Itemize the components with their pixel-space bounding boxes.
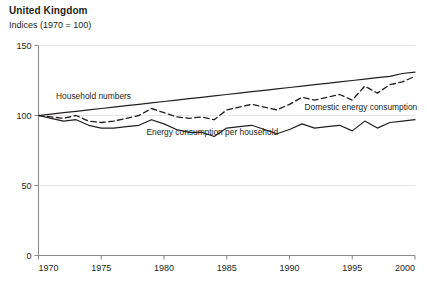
x-tick-label: 2000: [395, 263, 415, 273]
line-chart-plot: 050100150 1970197519801985199019952000 H…: [0, 0, 427, 281]
series-label: Household numbers: [56, 91, 131, 101]
series-label: Energy consumption per household: [146, 127, 278, 137]
x-tick-label: 1985: [217, 263, 237, 273]
gridlines-group: [39, 46, 416, 186]
x-tick-label: 1990: [279, 263, 299, 273]
chart-container: United Kingdom Indices (1970 = 100) 0501…: [0, 0, 427, 281]
chart-subtitle: Indices (1970 = 100): [9, 20, 91, 30]
x-tick-label: 1995: [342, 263, 362, 273]
x-tick-label: 1975: [91, 263, 111, 273]
x-axis-ticks-group: 1970197519801985199019952000: [39, 256, 416, 273]
series-label: Domestic energy consumption: [305, 102, 418, 112]
y-tick-label: 100: [16, 111, 31, 121]
x-tick-label: 1970: [39, 263, 59, 273]
axes-group: [39, 46, 416, 256]
y-tick-label: 50: [21, 181, 31, 191]
x-tick-label: 1980: [154, 263, 174, 273]
y-tick-label: 0: [26, 251, 31, 261]
page-title: United Kingdom: [9, 5, 88, 16]
y-axis-ticks-group: 050100150: [16, 41, 38, 261]
y-tick-label: 150: [16, 41, 31, 51]
series-annotations-group: Household numbersDomestic energy consump…: [56, 91, 417, 137]
